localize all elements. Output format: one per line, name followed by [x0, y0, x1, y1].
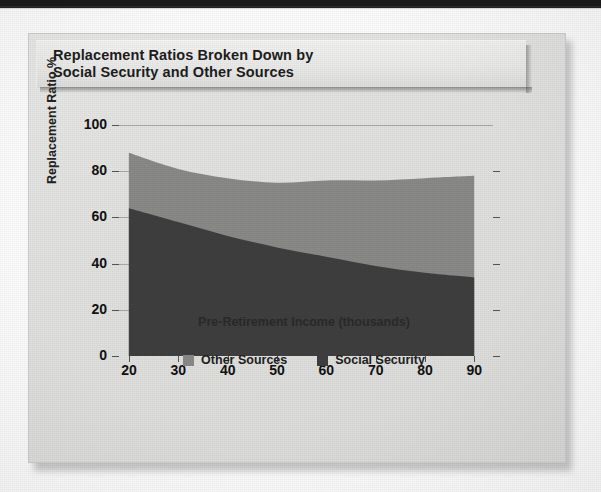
ytick-label-40: 40 — [61, 255, 107, 271]
legend-item-other-sources: Other Sources — [183, 353, 287, 367]
chart-legend: Other Sources Social Security — [119, 353, 489, 367]
ytick-mark-right-80 — [493, 171, 500, 172]
ytick-mark-40 — [112, 264, 119, 265]
ytick-mark-0 — [112, 356, 119, 357]
ytick-mark-right-60 — [493, 217, 500, 218]
legend-label-social-security: Social Security — [335, 353, 425, 367]
ytick-mark-60 — [112, 217, 119, 218]
ytick-mark-20 — [112, 310, 119, 311]
plot-wrapper: Replacement Ratio % 100 80 60 40 — [29, 34, 567, 464]
ytick-label-60: 60 — [61, 208, 107, 224]
y-axis-title: Replacement Ratio % — [45, 57, 59, 184]
ytick-mark-80 — [112, 171, 119, 172]
ytick-mark-right-0 — [493, 356, 500, 357]
legend-label-other-sources: Other Sources — [201, 353, 287, 367]
ytick-mark-100 — [112, 125, 119, 126]
ytick-label-80: 80 — [61, 162, 107, 178]
legend-swatch-other-sources — [183, 355, 194, 366]
ytick-mark-right-20 — [493, 310, 500, 311]
x-axis-title: Pre-Retirement Income (thousands) — [119, 315, 489, 329]
scan-bar-fade — [0, 6, 601, 9]
ytick-label-100: 100 — [61, 116, 107, 132]
ytick-label-0: 0 — [61, 347, 107, 363]
legend-item-social-security: Social Security — [317, 353, 425, 367]
figure-container: Replacement Ratios Broken Down by Social… — [28, 33, 566, 465]
chart-panel: Replacement Ratios Broken Down by Social… — [28, 33, 566, 463]
page-canvas: Replacement Ratios Broken Down by Social… — [0, 0, 601, 492]
ytick-label-20: 20 — [61, 301, 107, 317]
legend-swatch-social-security — [317, 355, 328, 366]
ytick-mark-right-40 — [493, 264, 500, 265]
scan-top-black-bar — [0, 0, 601, 8]
